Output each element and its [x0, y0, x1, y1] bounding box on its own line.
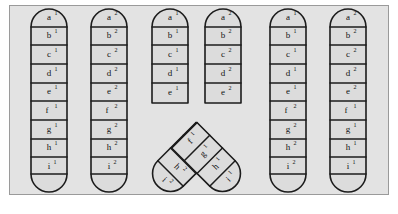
locus-sup: 2 [354, 10, 357, 16]
locus-label: a [346, 12, 350, 22]
locus-sup: 2 [229, 66, 232, 72]
locus-sup: 1 [55, 66, 58, 72]
locus-sup: 2 [115, 84, 118, 90]
locus-sup: 1 [54, 159, 57, 165]
locus-sup: 2 [354, 84, 357, 90]
locus-label: c [346, 49, 350, 59]
locus-label: g [47, 124, 52, 134]
chromatid-col-2: a 2 b 2 c 2 d 2 e 2 f 2 g 2 h 2 i 2 [91, 9, 127, 192]
locus-label: d [47, 68, 52, 78]
figure-canvas: a 1 b 1 c 1 d 1 e 1 f 1 g 1 h 1 i 1 [0, 0, 398, 214]
locus-sup: 2 [115, 10, 118, 16]
locus-sup: 1 [294, 84, 297, 90]
locus-label: d [346, 68, 351, 78]
locus-label: f [285, 105, 288, 115]
locus-label: h [47, 142, 52, 152]
chromatid-col-5: a 1 b 1 c 1 d 1 e 1 f 2 g 2 h 2 i 2 [270, 9, 306, 192]
locus-sup: 2 [229, 10, 232, 16]
locus-label: d [107, 68, 112, 78]
chromatid-col-1: a 1 b 1 c 1 d 1 e 1 f 1 g 1 h 1 i 1 [31, 9, 67, 192]
locus-sup: 2 [294, 140, 297, 146]
locus-label: c [221, 49, 225, 59]
locus-sup: 2 [115, 140, 118, 146]
locus-sup: 2 [115, 66, 118, 72]
locus-sup: 1 [55, 122, 58, 128]
locus-sup: 2 [354, 66, 357, 72]
locus-label: g [286, 124, 291, 134]
locus-label: d [168, 68, 173, 78]
locus-label: c [286, 49, 290, 59]
locus-label: h [346, 142, 351, 152]
locus-sup: 1 [354, 103, 357, 109]
locus-sup: 2 [229, 47, 232, 53]
locus-sup: 1 [176, 85, 179, 91]
locus-label: a [47, 12, 51, 22]
locus-label: h [107, 142, 112, 152]
locus-sup: 1 [354, 122, 357, 128]
locus-sup: 2 [115, 28, 118, 34]
locus-sup: 2 [115, 122, 118, 128]
locus-sup: 1 [176, 66, 179, 72]
locus-sup: 2 [115, 103, 118, 109]
locus-label: b [47, 30, 52, 40]
locus-label: c [47, 49, 51, 59]
locus-sup: 1 [55, 47, 58, 53]
locus-sup: 2 [294, 103, 297, 109]
locus-sup: 1 [55, 28, 58, 34]
locus-sup: 2 [115, 47, 118, 53]
locus-label: b [346, 30, 351, 40]
locus-sup: 2 [354, 28, 357, 34]
locus-label: a [286, 12, 290, 22]
locus-sup: 1 [55, 10, 58, 16]
locus-sup: 2 [114, 159, 117, 165]
locus-label: e [221, 87, 225, 97]
locus-sup: 2 [229, 28, 232, 34]
locus-sup: 2 [354, 47, 357, 53]
locus-sup: 2 [229, 85, 232, 91]
locus-label: e [107, 86, 111, 96]
locus-label: d [286, 68, 291, 78]
locus-label: e [168, 87, 172, 97]
locus-sup: 1 [294, 28, 297, 34]
locus-label: b [286, 30, 291, 40]
locus-label: g [346, 124, 351, 134]
locus-label: f [345, 105, 348, 115]
crossover-figure: a 1 b 1 c 1 d 1 e 1 f 1 g 1 h 1 i 1 [0, 0, 398, 214]
locus-label: f [46, 105, 49, 115]
locus-sup: 2 [294, 122, 297, 128]
locus-label: b [221, 30, 226, 40]
locus-label: e [47, 86, 51, 96]
locus-label: d [221, 68, 226, 78]
locus-label: a [221, 12, 225, 22]
locus-sup: 1 [176, 47, 179, 53]
locus-label: a [107, 12, 111, 22]
locus-sup: 1 [294, 66, 297, 72]
locus-label: f [106, 105, 109, 115]
chromatid-col-3: a 1 b 1 c 1 d 1 e 1 [152, 9, 188, 103]
locus-label: h [286, 142, 291, 152]
locus-sup: 1 [353, 159, 356, 165]
locus-sup: 1 [55, 140, 58, 146]
locus-sup: 1 [176, 28, 179, 34]
chromatid-col-4: a 2 b 2 c 2 d 2 e 2 [205, 9, 241, 103]
locus-label: e [346, 86, 350, 96]
locus-label: e [286, 86, 290, 96]
locus-label: c [107, 49, 111, 59]
locus-label: c [168, 49, 172, 59]
locus-label: b [168, 30, 173, 40]
locus-sup: 1 [294, 47, 297, 53]
locus-label: b [107, 30, 112, 40]
locus-sup: 2 [293, 159, 296, 165]
locus-sup: 1 [176, 10, 179, 16]
locus-sup: 1 [55, 103, 58, 109]
chromatid-col-6: a 2 b 2 c 2 d 2 e 2 f 1 g 1 h 1 i 1 [330, 9, 366, 192]
locus-sup: 1 [294, 10, 297, 16]
locus-label: g [107, 124, 112, 134]
locus-sup: 1 [55, 84, 58, 90]
locus-label: a [168, 12, 172, 22]
locus-sup: 1 [354, 140, 357, 146]
